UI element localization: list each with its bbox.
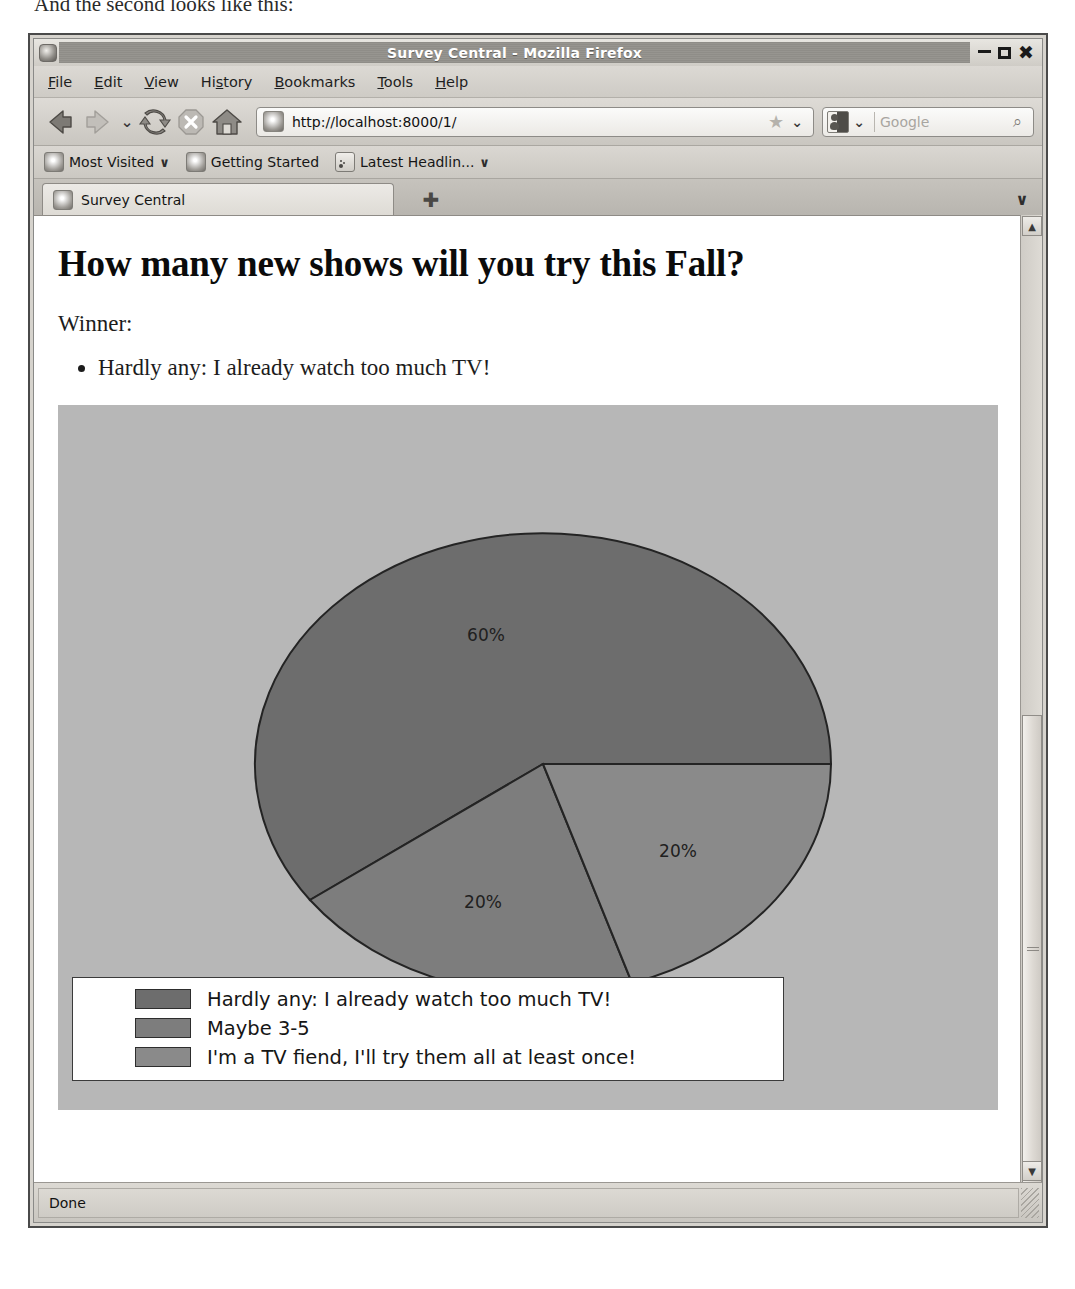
book-page-snippet: And the second looks like this: [34, 0, 294, 14]
navigation-toolbar: ⌄ [34, 98, 1042, 146]
bookmark-getting-started[interactable]: Getting Started [186, 152, 319, 172]
winner-label: Winner: [58, 311, 1020, 337]
legend-label: Hardly any: I already watch too much TV! [207, 988, 611, 1011]
search-box[interactable]: ⌄ Google ⌕ [822, 107, 1034, 137]
history-dropdown-icon[interactable]: ⌄ [116, 105, 138, 139]
close-icon[interactable]: ✖ [1018, 43, 1034, 62]
menu-history[interactable]: History [201, 74, 253, 90]
bookmark-most-visited[interactable]: Most Visited ∨ [44, 152, 170, 172]
tab-strip: Survey Central ✚ ∨ [34, 179, 1042, 215]
url-input[interactable]: http://localhost:8000/1/ [292, 114, 765, 130]
content-viewport: How many new shows will you try this Fal… [34, 215, 1042, 1182]
rss-icon [335, 152, 355, 172]
browser-window-inner: Survey Central - Mozilla Firefox ✖ File … [33, 38, 1043, 1223]
legend-label: I'm a TV fiend, I'll try them all at lea… [207, 1046, 636, 1069]
minimize-icon[interactable] [978, 50, 991, 53]
maximize-icon[interactable] [998, 47, 1011, 59]
menu-bar: File Edit View History Bookmarks Tools H… [34, 66, 1042, 98]
browser-window: Survey Central - Mozilla Firefox ✖ File … [28, 33, 1048, 1228]
pie-value-label-2: 20% [659, 841, 697, 861]
app-icon [39, 44, 57, 62]
scrollbar-thumb[interactable] [1022, 715, 1042, 1185]
menu-bookmarks[interactable]: Bookmarks [274, 74, 355, 90]
window-title: Survey Central - Mozilla Firefox [387, 45, 642, 61]
list-item: Hardly any: I already watch too much TV! [98, 353, 1020, 383]
winner-list: Hardly any: I already watch too much TV! [58, 353, 1020, 383]
url-dropdown-icon[interactable]: ⌄ [787, 114, 807, 130]
tab-favicon-icon [53, 190, 73, 210]
scroll-down-icon[interactable]: ▼ [1022, 1161, 1042, 1181]
tab-label: Survey Central [81, 192, 185, 208]
legend-label: Maybe 3-5 [207, 1017, 310, 1040]
bookmark-label: Latest Headlin... [360, 154, 474, 170]
chevron-down-icon[interactable]: ∨ [159, 155, 170, 170]
scrollbar-grip [1027, 947, 1039, 953]
web-page-content: How many new shows will you try this Fal… [34, 216, 1020, 1182]
url-bar[interactable]: http://localhost:8000/1/ ★ ⌄ [256, 107, 814, 137]
status-text: Done [49, 1195, 86, 1211]
legend-swatch [135, 1018, 191, 1038]
menu-view[interactable]: View [144, 74, 178, 90]
scroll-up-icon[interactable]: ▲ [1022, 216, 1042, 236]
screenshot-root: And the second looks like this: Survey C… [0, 0, 1075, 1289]
menu-tools[interactable]: Tools [377, 74, 413, 90]
title-bar-strip[interactable]: Survey Central - Mozilla Firefox [59, 42, 970, 63]
new-tab-button[interactable]: ✚ [394, 185, 468, 215]
menu-file[interactable]: File [48, 74, 72, 90]
bookmark-label: Most Visited [69, 154, 154, 170]
bookmark-label: Getting Started [211, 154, 319, 170]
google-icon[interactable] [827, 111, 849, 133]
vertical-scrollbar[interactable]: ▲ ▼ [1020, 215, 1042, 1182]
legend-swatch [135, 1047, 191, 1067]
site-favicon-icon [263, 111, 284, 132]
home-icon[interactable] [210, 105, 244, 139]
legend-entry: Hardly any: I already watch too much TV! [83, 985, 773, 1014]
pie-value-label-3: 20% [464, 892, 502, 912]
bookmarks-toolbar: Most Visited ∨ Getting Started Latest He… [34, 146, 1042, 179]
legend-entry: I'm a TV fiend, I'll try them all at lea… [83, 1043, 773, 1072]
legend-swatch [135, 989, 191, 1009]
menu-edit[interactable]: Edit [94, 74, 122, 90]
list-all-tabs-icon[interactable]: ∨ [1002, 183, 1042, 215]
back-icon[interactable] [44, 105, 78, 139]
pie-value-label-1: 60% [467, 625, 505, 645]
search-divider [874, 112, 875, 132]
page-title: How many new shows will you try this Fal… [58, 242, 1020, 285]
tab-survey-central[interactable]: Survey Central [42, 183, 394, 215]
search-icon[interactable]: ⌕ [1005, 112, 1029, 131]
menu-help[interactable]: Help [435, 74, 468, 90]
window-controls: ✖ [970, 43, 1042, 62]
legend-entry: Maybe 3-5 [83, 1014, 773, 1043]
bookmark-latest-headlines[interactable]: Latest Headlin... ∨ [335, 152, 490, 172]
search-engine-dropdown-icon[interactable]: ⌄ [849, 114, 869, 130]
chevron-down-icon[interactable]: ∨ [479, 155, 490, 170]
resize-grip-icon[interactable] [1021, 1188, 1039, 1218]
title-bar: Survey Central - Mozilla Firefox ✖ [34, 39, 1042, 66]
status-bar: Done [34, 1182, 1042, 1222]
bookmark-star-icon[interactable]: ★ [765, 111, 787, 132]
page-icon [186, 152, 206, 172]
reload-icon[interactable] [138, 105, 172, 139]
forward-icon[interactable] [80, 105, 114, 139]
folder-icon [44, 152, 64, 172]
pie-chart-image: 60% 20% 20% Hardly any: I already watch … [58, 405, 998, 1110]
search-input[interactable]: Google [880, 114, 1005, 130]
chart-legend: Hardly any: I already watch too much TV!… [72, 977, 784, 1081]
status-panel: Done [38, 1188, 1019, 1218]
stop-icon[interactable] [174, 105, 208, 139]
